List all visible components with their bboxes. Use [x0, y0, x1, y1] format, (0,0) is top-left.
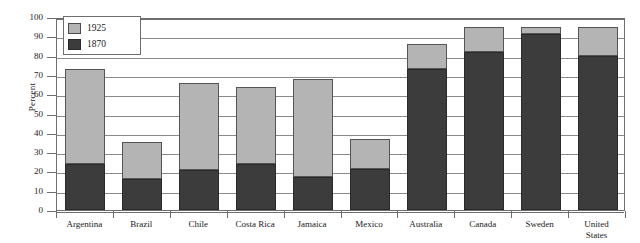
x-tick-label-australia: Australia — [397, 219, 454, 230]
bar-segment-1925[interactable] — [65, 69, 105, 164]
bar-group[interactable] — [236, 86, 276, 210]
y-tick-mark — [47, 37, 56, 38]
bar-segment-1925[interactable] — [578, 27, 618, 56]
y-tick-label: 0 — [39, 205, 44, 216]
bar-segment-1870[interactable] — [236, 164, 276, 210]
x-tick-label-sweden: Sweden — [511, 219, 568, 230]
x-tick-mark — [454, 211, 455, 218]
y-tick-label: 30 — [34, 147, 43, 158]
legend-label: 1925 — [87, 22, 106, 34]
legend-label: 1870 — [87, 38, 106, 50]
y-tick-mark — [47, 18, 56, 19]
y-tick-label: 60 — [34, 89, 43, 100]
y-tick-label: 50 — [34, 109, 43, 120]
chart-legend: 19251870 — [63, 16, 141, 55]
x-tick-mark — [511, 211, 512, 218]
y-tick-label: 40 — [34, 128, 43, 139]
stacked-bar-chart: Percent 1009080706050403020100 Argentina… — [0, 0, 640, 243]
x-tick-mark — [284, 211, 285, 218]
bar-segment-1870[interactable] — [464, 52, 504, 210]
x-tick-label-argentina: Argentina — [56, 219, 113, 230]
bar-group[interactable] — [578, 27, 618, 210]
x-tick-mark — [56, 211, 57, 218]
y-tick-mark — [47, 95, 56, 96]
bar-group[interactable] — [293, 79, 333, 210]
y-tick-label: 100 — [30, 12, 44, 23]
bar-group[interactable] — [65, 69, 105, 210]
legend-item-1925[interactable]: 1925 — [68, 20, 136, 36]
x-tick-mark — [625, 211, 626, 218]
bar-group[interactable] — [407, 44, 447, 210]
y-tick-label: 80 — [34, 51, 43, 62]
legend-swatch-icon — [68, 23, 81, 34]
bar-group[interactable] — [122, 142, 162, 210]
bar-segment-1870[interactable] — [407, 69, 447, 210]
x-tick-label-canada: Canada — [454, 219, 511, 230]
bar-segment-1925[interactable] — [521, 27, 561, 35]
y-tick-mark — [47, 76, 56, 77]
x-tick-label-chile: Chile — [170, 219, 227, 230]
bar-segment-1925[interactable] — [350, 139, 390, 170]
bar-group[interactable] — [350, 139, 390, 210]
x-tick-mark — [227, 211, 228, 218]
x-tick-label-costa-rica: Costa Rica — [227, 219, 284, 230]
y-tick-label: 10 — [34, 186, 43, 197]
y-tick-label: 20 — [34, 166, 43, 177]
bar-segment-1925[interactable] — [236, 87, 276, 164]
y-tick-mark — [47, 115, 56, 116]
y-tick-mark — [47, 134, 56, 135]
bar-segment-1870[interactable] — [350, 169, 390, 210]
y-tick-mark — [47, 153, 56, 154]
bar-segment-1870[interactable] — [65, 164, 105, 210]
bar-segment-1870[interactable] — [293, 177, 333, 210]
x-tick-mark — [113, 211, 114, 218]
bar-segment-1925[interactable] — [464, 27, 504, 52]
bar-segment-1925[interactable] — [293, 79, 333, 177]
bar-group[interactable] — [179, 83, 219, 210]
bar-segment-1870[interactable] — [122, 179, 162, 210]
bar-group[interactable] — [521, 27, 561, 210]
legend-item-1870[interactable]: 1870 — [68, 36, 136, 52]
legend-swatch-icon — [68, 39, 81, 50]
x-tick-mark — [341, 211, 342, 218]
bar-segment-1925[interactable] — [179, 83, 219, 171]
y-tick-label: 70 — [34, 70, 43, 81]
bar-segment-1870[interactable] — [578, 56, 618, 210]
y-tick-mark — [47, 192, 56, 193]
y-tick-mark — [47, 211, 56, 212]
x-tick-label-united-states: United States — [568, 219, 625, 241]
bar-group[interactable] — [464, 27, 504, 210]
bar-segment-1925[interactable] — [407, 44, 447, 69]
plot-area — [56, 18, 625, 211]
bar-segment-1870[interactable] — [521, 34, 561, 210]
bar-series-container — [57, 19, 624, 210]
bar-segment-1870[interactable] — [179, 170, 219, 210]
y-tick-mark — [47, 57, 56, 58]
x-tick-label-jamaica: Jamaica — [284, 219, 341, 230]
y-axis-ticks: 1009080706050403020100 — [0, 0, 56, 243]
x-tick-mark — [568, 211, 569, 218]
x-axis-ticks-and-labels: ArgentinaBrazilChileCosta RicaJamaicaMex… — [56, 211, 625, 243]
y-tick-mark — [47, 172, 56, 173]
bar-segment-1925[interactable] — [122, 142, 162, 179]
y-tick-label: 90 — [34, 31, 43, 42]
x-tick-mark — [170, 211, 171, 218]
x-tick-label-brazil: Brazil — [113, 219, 170, 230]
x-tick-mark — [397, 211, 398, 218]
x-tick-label-mexico: Mexico — [341, 219, 398, 230]
